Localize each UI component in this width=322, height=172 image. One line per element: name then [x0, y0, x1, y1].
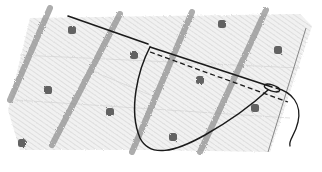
fabric-dot: [106, 108, 114, 116]
fabric-dot: [130, 51, 138, 59]
fabric-dot: [274, 46, 282, 54]
fabric-dot: [44, 86, 52, 94]
fabric-dot: [18, 139, 26, 147]
fabric-dot: [169, 133, 177, 141]
sewing-illustration: Pencil sketch of a needle and thread sti…: [0, 0, 322, 172]
fabric-dot: [218, 20, 226, 28]
fabric-dot: [196, 76, 204, 84]
fabric-dot: [251, 104, 259, 112]
sketch-canvas: [0, 0, 322, 172]
fabric-dot: [68, 26, 76, 34]
